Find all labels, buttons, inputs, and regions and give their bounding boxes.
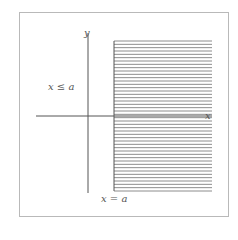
x-axis-label: x: [205, 111, 211, 121]
region-label: x ≤ a: [48, 82, 74, 92]
y-axis-label: y: [84, 28, 90, 38]
boundary-label: x = a: [101, 194, 127, 204]
